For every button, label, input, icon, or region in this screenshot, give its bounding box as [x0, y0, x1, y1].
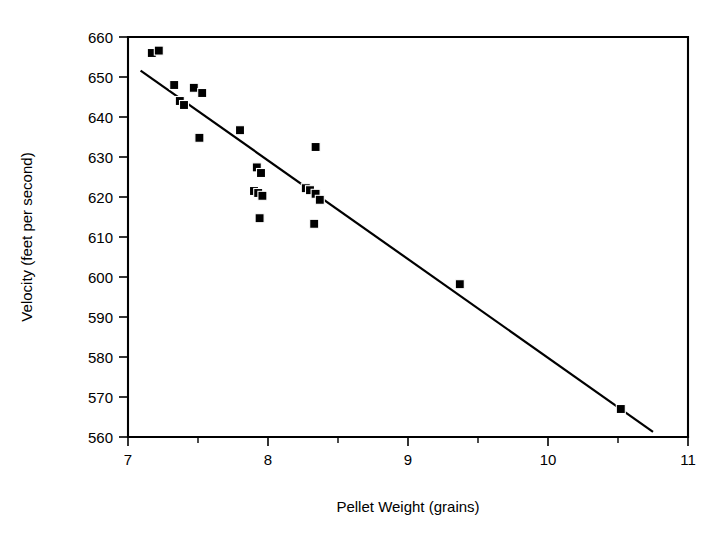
plot-frame-top-right — [128, 37, 688, 437]
data-point-marker — [310, 219, 319, 228]
x-axis-ticks — [128, 437, 688, 446]
regression-line — [141, 71, 653, 432]
data-point-marker — [180, 101, 189, 110]
data-point-marker — [170, 81, 179, 90]
y-tick-label: 660 — [88, 29, 113, 46]
y-tick-label: 580 — [88, 349, 113, 366]
data-point-marker — [258, 191, 267, 200]
y-tick-label: 600 — [88, 269, 113, 286]
x-tick-label: 10 — [540, 451, 557, 468]
y-tick-label: 560 — [88, 429, 113, 446]
plot-frame — [128, 37, 688, 437]
chart-canvas: 560570580590600610620630640650660 789101… — [0, 0, 728, 549]
x-tick-label: 7 — [124, 451, 132, 468]
y-tick-label: 610 — [88, 229, 113, 246]
y-tick-label: 620 — [88, 189, 113, 206]
y-axis-title: Velocity (feet per second) — [18, 152, 35, 321]
y-tick-label: 570 — [88, 389, 113, 406]
y-tick-label: 650 — [88, 69, 113, 86]
data-point-marker — [189, 83, 198, 92]
regression-line-segment — [141, 71, 653, 432]
data-point-marker — [311, 143, 320, 152]
data-point-marker — [455, 280, 464, 289]
data-point-marker — [195, 133, 204, 142]
y-tick-label: 640 — [88, 109, 113, 126]
data-point-marker — [198, 89, 207, 98]
x-axis-title: Pellet Weight (grains) — [336, 498, 479, 515]
data-point-marker — [315, 195, 324, 204]
data-point-marker — [255, 214, 264, 223]
x-axis-tick-labels: 7891011 — [124, 451, 696, 468]
y-axis-ticks — [119, 37, 128, 437]
data-point-marker — [616, 405, 625, 414]
data-point-marker — [154, 46, 163, 55]
y-axis-tick-labels: 560570580590600610620630640650660 — [88, 29, 113, 446]
x-tick-label: 9 — [404, 451, 412, 468]
data-points — [147, 46, 625, 413]
y-tick-label: 590 — [88, 309, 113, 326]
x-tick-label: 8 — [264, 451, 272, 468]
data-point-marker — [236, 126, 245, 135]
y-tick-label: 630 — [88, 149, 113, 166]
scatter-plot-figure: 560570580590600610620630640650660 789101… — [0, 0, 728, 549]
x-tick-label: 11 — [680, 451, 696, 468]
data-point-marker — [257, 169, 266, 178]
